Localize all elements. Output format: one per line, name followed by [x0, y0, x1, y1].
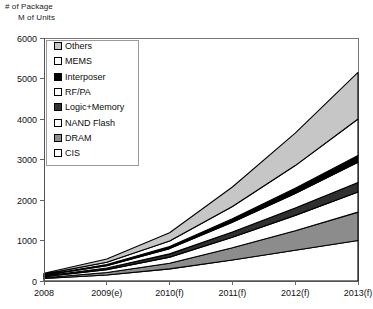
legend-swatch-nand-flash	[54, 119, 61, 126]
legend-swatch-rf-pa	[54, 88, 61, 95]
x-tick-label: 2011(f)	[218, 288, 246, 298]
y-tick-label: 1000	[17, 236, 37, 246]
chart-container: # of Package M of Units 0100020003000400…	[0, 0, 373, 309]
stacked-area-chart: 0100020003000400050006000 20082009(e)201…	[0, 0, 373, 309]
y-tick-label: 6000	[17, 34, 37, 44]
x-tick-label: 2013(f)	[344, 288, 373, 298]
y-tick-label: 4000	[17, 115, 37, 125]
y-tick-label: 0	[32, 277, 37, 287]
x-tick-label: 2008	[34, 288, 54, 298]
legend-swatch-interposer	[54, 73, 61, 80]
chart-header-package: # of Package	[5, 2, 53, 11]
legend-swatch-cis	[54, 150, 61, 157]
x-tick-label: 2009(e)	[91, 288, 122, 298]
legend-swatch-logic-memory	[54, 104, 61, 111]
legend-label-others: Others	[65, 41, 93, 51]
x-tick-label: 2012(f)	[281, 288, 310, 298]
legend-label-rf-pa: RF/PA	[65, 87, 91, 97]
chart-header-units: M of Units	[18, 13, 55, 22]
legend-label-cis: CIS	[65, 148, 80, 158]
y-axis-ticks: 0100020003000400050006000	[17, 34, 44, 287]
y-tick-label: 3000	[17, 155, 37, 165]
y-tick-label: 2000	[17, 196, 37, 206]
chart-legend: OthersMEMSInterposerRF/PALogic+MemoryNAN…	[47, 41, 139, 166]
legend-label-mems: MEMS	[65, 56, 92, 66]
legend-label-interposer: Interposer	[65, 72, 106, 82]
legend-swatch-dram	[54, 134, 61, 141]
legend-label-logic-memory: Logic+Memory	[65, 102, 125, 112]
legend-swatch-others	[54, 43, 61, 50]
x-tick-label: 2010(f)	[155, 288, 184, 298]
y-tick-label: 5000	[17, 74, 37, 84]
x-axis-ticks: 20082009(e)2010(f)2011(f)2012(f)2013(f)	[34, 281, 372, 298]
legend-swatch-mems	[54, 58, 61, 65]
legend-label-nand-flash: NAND Flash	[65, 118, 115, 128]
legend-label-dram: DRAM	[65, 133, 92, 143]
